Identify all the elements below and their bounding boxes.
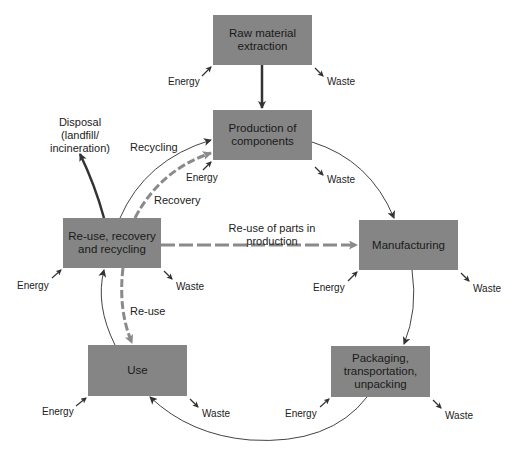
arrow-recovery — [135, 153, 211, 218]
energy-arrow-manufacturing — [348, 272, 357, 281]
stage-label: Use — [127, 364, 147, 377]
energy-label-reuse: Energy — [17, 280, 49, 291]
arrow-manufacturing-to-packaging — [404, 270, 414, 344]
waste-label-raw: Waste — [327, 76, 355, 87]
stage-label: Production of components — [217, 122, 308, 148]
waste-label-reuse: Waste — [176, 281, 204, 292]
stage-packaging: Packaging, transportation, unpacking — [331, 346, 430, 397]
energy-arrow-raw — [202, 67, 211, 76]
flow-label-recovery: Recovery — [154, 194, 200, 207]
flow-label-recycling: Recycling — [130, 141, 178, 154]
stage-raw-material-extraction: Raw material extraction — [213, 15, 312, 65]
stage-label: Manufacturing — [372, 239, 445, 252]
flow-label-reuse-parts: Re-use of parts in production — [222, 222, 322, 248]
waste-arrow-manufacturing — [461, 273, 469, 281]
arrow-disposal — [80, 154, 104, 218]
energy-arrow-use — [76, 398, 86, 406]
stage-label: Re-use, recovery and recycling — [67, 230, 157, 256]
waste-arrow-production — [315, 167, 323, 175]
waste-arrow-packaging — [433, 400, 441, 408]
waste-label-manufacturing: Waste — [473, 283, 501, 294]
stage-use: Use — [88, 345, 187, 396]
waste-arrow-raw — [315, 68, 323, 76]
waste-label-production: Waste — [327, 174, 355, 185]
flow-label-disposal: Disposal (landfill/ incineration) — [45, 116, 115, 155]
waste-arrow-reuse — [164, 271, 172, 279]
stage-manufacturing: Manufacturing — [359, 220, 458, 270]
energy-arrow-packaging — [320, 399, 329, 407]
stage-label: Raw material extraction — [217, 27, 308, 53]
waste-label-use: Waste — [202, 408, 230, 419]
waste-arrow-use — [190, 399, 198, 407]
stage-reuse-recovery-recycling: Re-use, recovery and recycling — [63, 218, 161, 268]
arrow-use-to-reuse-center — [101, 270, 115, 345]
energy-label-raw: Energy — [168, 76, 200, 87]
energy-arrow-production — [203, 162, 211, 170]
stage-label: Packaging, transportation, unpacking — [335, 352, 426, 391]
life-cycle-diagram: Raw material extraction Production of co… — [0, 0, 516, 453]
energy-label-packaging: Energy — [285, 408, 317, 419]
flow-label-reuse: Re-use — [130, 305, 165, 318]
arrow-packaging-to-use — [150, 397, 367, 440]
stage-production-of-components: Production of components — [213, 110, 312, 160]
waste-label-packaging: Waste — [445, 410, 473, 421]
energy-label-use: Energy — [42, 406, 74, 417]
energy-label-production: Energy — [186, 172, 218, 183]
energy-label-manufacturing: Energy — [313, 282, 345, 293]
energy-arrow-reuse — [52, 270, 61, 278]
